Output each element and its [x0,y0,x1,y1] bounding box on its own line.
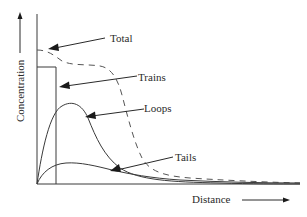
x-axis-label: Distance [192,193,231,205]
arrowhead-icon [48,44,59,52]
y-axis-label: Concentration [14,59,26,122]
loops-label: Loops [144,102,172,114]
arrowhead-icon [110,164,121,172]
trains-label: Trains [138,71,166,83]
loops-curve [37,103,300,184]
x-axis-label-group: Distance [192,193,290,205]
trains-leader-line [66,76,137,86]
y-axis-label-group: Concentration [14,12,26,122]
arrowhead-icon [59,82,70,90]
total-annotation: Total [48,32,132,51]
loops-leader-line [92,109,144,116]
up-arrow-icon [18,12,23,19]
concentration-diagram: Concentration Distance Total Trains Loop… [0,0,307,217]
total-leader-line [55,38,105,48]
total-label: Total [110,32,132,44]
tails-annotation: Tails [110,151,196,172]
right-arrow-icon [283,198,290,203]
loops-annotation: Loops [85,102,172,119]
tails-label: Tails [175,151,196,163]
tails-leader-line [117,157,173,170]
